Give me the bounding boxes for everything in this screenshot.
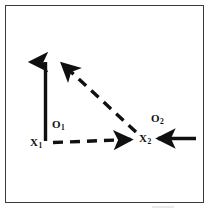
label-o1-subscript: 1 [61,123,65,132]
label-x1-subscript: 1 [38,141,42,150]
vector-diagram-canvas [0,0,213,214]
scan-artifact-bottom-right [152,206,174,208]
vector-x2-to-upperleft-dashed-arrow [62,64,136,133]
label-x2-subscript: 2 [147,137,151,146]
label-x1-base: X [30,136,38,148]
label-x1: X1 [30,137,42,148]
label-x2: X2 [139,133,151,144]
label-o1: O1 [52,119,65,130]
vector-x1-to-x2-dashed-arrow [53,140,131,143]
label-o2-base: O [151,112,160,124]
label-o2: O2 [151,113,164,124]
figure-root: X1 O1 X2 O2 [0,0,213,214]
label-o2-subscript: 2 [160,117,164,126]
label-x2-base: X [139,132,147,144]
label-o1-base: O [52,118,61,130]
